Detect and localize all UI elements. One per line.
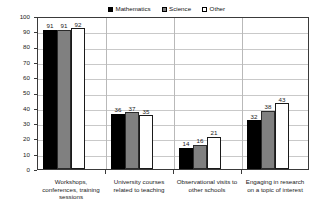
y-tick-label: 20	[8, 136, 30, 142]
legend-swatch-icon	[108, 7, 113, 12]
bar-value-label: 43	[272, 97, 292, 103]
bar[interactable]	[43, 30, 57, 169]
legend-entry[interactable]: Other	[202, 6, 225, 12]
legend-label: Mathematics	[116, 6, 151, 12]
bar[interactable]	[111, 114, 125, 169]
y-tick-label: 10	[8, 152, 30, 158]
bar[interactable]	[261, 111, 275, 169]
category-tick	[241, 170, 242, 174]
chart-legend: MathematicsScienceOther	[108, 4, 225, 15]
bar-value-label: 35	[136, 109, 156, 115]
category-label: Observational visits to other schools	[173, 178, 241, 193]
y-tick-label: 60	[8, 75, 30, 81]
legend-label: Science	[169, 6, 191, 12]
y-tick-mark	[34, 170, 37, 171]
legend-swatch-icon	[202, 7, 207, 12]
y-tick-label: 40	[8, 106, 30, 112]
category-label: University courses related to teaching	[105, 178, 173, 193]
legend-swatch-icon	[162, 7, 167, 12]
category-label: Engaging in research on a topic of inter…	[241, 178, 309, 193]
bar[interactable]	[71, 28, 85, 169]
bar-value-label: 92	[68, 22, 88, 28]
bar-chart: MathematicsScienceOther Percent 10090807…	[0, 0, 329, 223]
bar[interactable]	[125, 112, 139, 169]
y-tick-label: 0	[8, 167, 30, 173]
y-tick-label: 100	[8, 14, 30, 20]
bar-value-label: 21	[204, 130, 224, 136]
legend-label: Other	[210, 6, 225, 12]
category-separator	[242, 18, 243, 169]
bar[interactable]	[193, 145, 207, 169]
bar[interactable]	[207, 137, 221, 169]
bar[interactable]	[275, 103, 289, 169]
bar[interactable]	[179, 148, 193, 169]
bar[interactable]	[57, 30, 71, 169]
y-tick-label: 70	[8, 60, 30, 66]
category-separator	[106, 18, 107, 169]
category-tick	[105, 170, 106, 174]
legend-entry[interactable]: Mathematics	[108, 6, 151, 12]
category-separator	[174, 18, 175, 169]
legend-entry[interactable]: Science	[162, 6, 192, 12]
y-tick-label: 50	[8, 90, 30, 96]
y-tick-label: 90	[8, 29, 30, 35]
category-tick	[173, 170, 174, 174]
plot-area: 919192363735141621323843	[37, 17, 309, 170]
y-tick-label: 30	[8, 121, 30, 127]
category-label: Workshops, conferences, training session…	[37, 178, 105, 201]
bar[interactable]	[139, 115, 153, 169]
bar[interactable]	[247, 120, 261, 169]
y-tick-label: 80	[8, 44, 30, 50]
